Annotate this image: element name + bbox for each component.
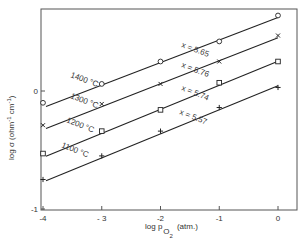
stoichiometry-label: x = 5.65 — [180, 40, 211, 59]
square-marker — [99, 129, 104, 134]
axis-tick-labels: -4- 3-2-100-1 — [31, 87, 281, 223]
circle-marker — [41, 100, 46, 105]
plot-frame — [41, 9, 297, 210]
stoichiometry-label: x = 5.57 — [178, 107, 208, 126]
circle-marker — [217, 39, 222, 44]
x-tick-label: - 3 — [97, 214, 107, 223]
square-marker — [41, 151, 46, 156]
square-marker — [276, 59, 281, 64]
x-axis-label: log pO2(atm.) — [145, 222, 198, 239]
cross-marker — [41, 123, 45, 127]
square-marker — [158, 108, 163, 113]
cross-marker — [276, 34, 280, 38]
temperature-label: 1300 °C — [69, 91, 100, 110]
circle-marker — [158, 59, 163, 64]
plus-marker — [275, 85, 280, 90]
conductivity-chart: -4- 3-2-100-1 1400 °Cx = 5.651300 °Cx = … — [0, 0, 307, 251]
temperature-label: 1400 °C — [69, 70, 100, 89]
y-tick-label: -1 — [31, 205, 39, 214]
y-tick-label: 0 — [34, 87, 39, 96]
cross-marker — [100, 102, 104, 106]
square-marker — [217, 80, 222, 85]
circle-marker — [276, 13, 281, 18]
y-axis-label: log σ (ohm-1 cm-1) — [6, 95, 16, 160]
x-tick-label: -1 — [216, 214, 224, 223]
x-tick-label: 0 — [276, 214, 281, 223]
temperature-label: 1100 °C — [60, 140, 90, 159]
temperature-label: 1200 °C — [65, 115, 95, 134]
x-tick-label: -4 — [39, 214, 47, 223]
circle-marker — [99, 82, 104, 87]
stoichiometry-label: x = 5.76 — [180, 60, 211, 79]
